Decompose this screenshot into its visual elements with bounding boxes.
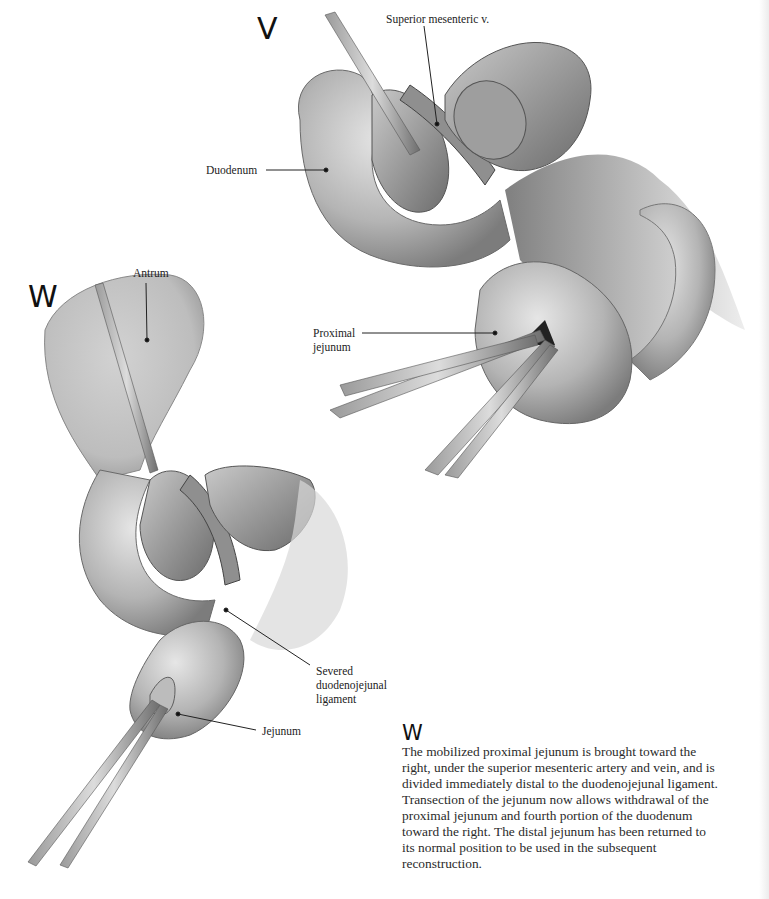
panel-letter-v: V: [257, 14, 278, 44]
label-duodenum: Duodenum: [206, 163, 257, 177]
figure-v-drawing: [298, 12, 745, 478]
caption-text: The mobilized proximal jejunum is brough…: [402, 744, 767, 872]
figure-w-drawing: [28, 274, 348, 868]
panel-letter-w: W: [28, 282, 58, 312]
label-proximal-jejunum: Proximal jejunum: [313, 326, 355, 354]
label-jejunum: Jejunum: [262, 724, 301, 738]
label-antrum: Antrum: [133, 266, 169, 280]
label-severed-duodenojejunal-ligament: Severed duodenojejunal ligament: [316, 664, 387, 706]
label-superior-mesenteric-v: Superior mesenteric v.: [386, 12, 489, 26]
caption-letter: W: [402, 722, 767, 744]
figure-caption: W The mobilized proximal jejunum is brou…: [402, 722, 767, 872]
